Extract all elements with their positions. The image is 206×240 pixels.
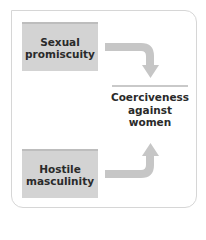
arrowhead-up-icon — [142, 143, 159, 156]
arrow-top-icon — [105, 47, 150, 66]
arrowhead-down-icon — [142, 65, 159, 78]
arrow-bottom-icon — [105, 155, 150, 174]
node-coerciveness: Coerciveness against women — [110, 91, 190, 129]
target-divider — [112, 85, 188, 87]
node-label-line: Coerciveness — [110, 91, 190, 104]
node-label-line: women — [110, 116, 190, 129]
node-label-line: against — [110, 104, 190, 117]
